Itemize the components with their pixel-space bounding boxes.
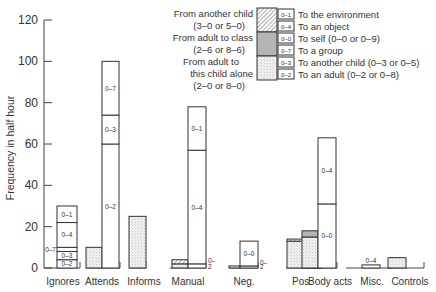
stimulus-segment bbox=[287, 241, 304, 268]
bar-group-controls bbox=[388, 258, 424, 268]
legend-code: 0–7 bbox=[281, 48, 292, 54]
bar-group-informs bbox=[129, 216, 146, 268]
stimulus-segment bbox=[172, 264, 188, 268]
stimulus-segment bbox=[172, 260, 188, 264]
y-tick-label: 0 bbox=[31, 261, 38, 275]
y-tick-label: 40 bbox=[25, 178, 39, 192]
response-segment bbox=[362, 265, 380, 268]
segment-code: 0–7 bbox=[45, 246, 56, 253]
svg-text:(2–0 or 8–0): (2–0 or 8–0) bbox=[193, 80, 245, 91]
segment-code: 0–4 bbox=[192, 204, 203, 211]
response-segment bbox=[57, 247, 77, 251]
legend-source-label: From adult to class bbox=[173, 32, 253, 43]
segment-code: 0–0 bbox=[322, 232, 333, 239]
response-segment bbox=[188, 264, 206, 268]
bar-group-attends: 0–20–30–7 bbox=[86, 61, 120, 268]
bar-group-manual: 0–20–40–1 bbox=[170, 107, 216, 270]
legend-source-label: From adult to bbox=[183, 56, 239, 67]
segment-code: 0–4 bbox=[366, 257, 377, 264]
x-tick-label: Misc. bbox=[360, 276, 383, 287]
segment-code: 2 bbox=[208, 263, 212, 270]
svg-text:this child alone: this child alone bbox=[190, 68, 253, 79]
segment-code: 0–0 bbox=[244, 250, 255, 257]
segment-code: 0–4 bbox=[62, 231, 73, 238]
segment-code: 0–4 bbox=[322, 167, 333, 174]
svg-text:(3–0 or 5–0): (3–0 or 5–0) bbox=[193, 20, 245, 31]
legend-code: 0–3 bbox=[281, 60, 292, 66]
legend-target-label: To a group bbox=[298, 45, 343, 56]
y-axis-title: Frequency in half hour bbox=[4, 95, 16, 200]
bars: 0–20–30–70–40–10–20–30–70–20–40–10–20–00… bbox=[44, 61, 424, 270]
bar-group-body-acts: 0–00–4 bbox=[302, 138, 337, 268]
y-tick-label: 60 bbox=[25, 137, 39, 151]
x-tick-label: Manual bbox=[172, 276, 205, 287]
segment-code: 0–1 bbox=[62, 211, 73, 218]
legend-target-label: To an object bbox=[298, 21, 350, 32]
legend-target-label: To another child (0–3 or 0–5) bbox=[298, 57, 419, 68]
segment-code: 0–3 bbox=[62, 252, 73, 259]
stimulus-segment bbox=[86, 247, 102, 268]
segment-code: 0–1 bbox=[192, 125, 203, 132]
legend-source-label: From another child bbox=[174, 8, 253, 19]
bar-group-neg: 0–20–0 bbox=[229, 241, 268, 270]
y-tick-label: 20 bbox=[25, 220, 39, 234]
segment-code: 0–3 bbox=[105, 126, 116, 133]
legend-target-label: To an adult (0–2 or 0–8) bbox=[298, 69, 399, 80]
legend-code: 0–4 bbox=[281, 24, 292, 30]
x-tick-label: Neg. bbox=[233, 276, 254, 287]
stimulus-segment bbox=[129, 216, 146, 268]
legend-code: 0–0 bbox=[281, 36, 292, 42]
x-tick-label: Ignores bbox=[46, 276, 79, 287]
svg-text:(2–6 or 8–6): (2–6 or 8–6) bbox=[193, 44, 245, 55]
stacked-bar-chart: Frequency in half hour 020406080100120 0… bbox=[0, 0, 436, 292]
stimulus-segment bbox=[229, 266, 240, 268]
x-tick-label: Informs bbox=[127, 276, 160, 287]
segment-code: 0–2 bbox=[62, 260, 73, 267]
bar-group-misc: 0–4 bbox=[346, 257, 392, 268]
segment-code: 0–7 bbox=[105, 85, 116, 92]
legend-target-label: To self (0–0 or 0–9) bbox=[298, 33, 380, 44]
bar-group-ignores: 0–20–30–70–40–1 bbox=[44, 206, 80, 268]
stimulus-segment bbox=[388, 258, 406, 268]
y-tick-label: 80 bbox=[25, 96, 39, 110]
x-tick-label: Controls bbox=[391, 276, 428, 287]
y-axis: 020406080100120 bbox=[18, 13, 52, 275]
stimulus-segment bbox=[302, 237, 318, 268]
y-tick-label: 100 bbox=[18, 54, 38, 68]
segment-code: 2 bbox=[260, 263, 264, 270]
x-axis-labels: IgnoresAttendsInformsManualNeg.Pos.Body … bbox=[46, 276, 428, 287]
legend-target-label: To the environment bbox=[298, 9, 379, 20]
segment-code: 0–2 bbox=[105, 203, 116, 210]
x-tick-label: Attends bbox=[85, 276, 119, 287]
y-tick-label: 120 bbox=[18, 13, 38, 27]
stimulus-segment bbox=[287, 239, 304, 241]
stimulus-segment bbox=[302, 231, 318, 237]
x-tick-label: Body acts bbox=[308, 276, 352, 287]
y-axis-label: Frequency in half hour bbox=[4, 95, 16, 200]
legend: 0–1To the environment0–4To an object0–0T… bbox=[173, 8, 420, 91]
legend-code: 0–1 bbox=[281, 12, 292, 18]
legend-code: 0–2 bbox=[281, 72, 292, 78]
